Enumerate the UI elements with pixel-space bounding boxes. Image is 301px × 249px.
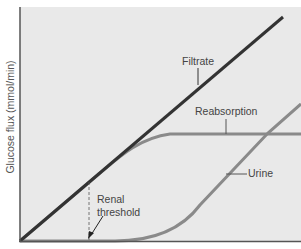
filtrate-label: Filtrate <box>182 55 214 68</box>
renal-threshold-label-line2: threshold <box>97 206 140 219</box>
y-axis-label: Glucose flux (mmol/min) <box>4 42 18 192</box>
urine-label: Urine <box>248 167 273 180</box>
reabsorption-label: Reabsorption <box>195 105 257 118</box>
chart-canvas <box>0 0 301 249</box>
renal-threshold-label-line1: Renal <box>97 193 124 206</box>
